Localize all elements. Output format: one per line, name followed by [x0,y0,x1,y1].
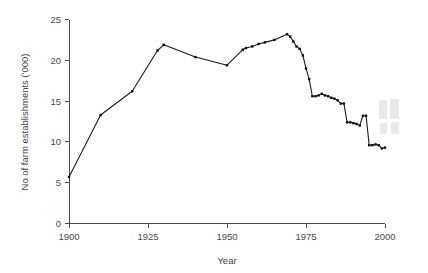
data-point [330,97,332,99]
data-point [321,93,323,95]
data-point [156,49,158,51]
data-point [226,64,228,66]
data-point [131,90,133,92]
data-point [359,124,361,126]
x-tick-label: 1925 [137,231,158,242]
data-point [257,43,259,45]
data-point [336,99,338,101]
data-point [245,47,247,49]
y-tick-label: 25 [50,14,61,25]
farm-establishments-line-chart: 0510152025 19001925195019752000 Year No … [0,0,428,273]
data-point [292,40,294,42]
data-point [194,56,196,58]
y-tick-label: 15 [50,96,61,107]
data-point [371,144,373,146]
data-point [352,122,354,124]
data-point [340,102,342,104]
data-point [384,146,386,148]
data-point [242,48,244,50]
data-point [368,144,370,146]
data-point [327,95,329,97]
data-point [317,94,319,96]
y-axis-title: No of farm establishments ('000) [19,54,30,191]
data-point [264,41,266,43]
data-point [377,144,379,146]
data-point [333,97,335,99]
data-point [251,45,253,47]
data-point [349,121,351,123]
data-point [273,39,275,41]
data-point [314,95,316,97]
data-point [298,48,300,50]
data-point [346,121,348,123]
data-point [68,176,70,178]
data-point [362,115,364,117]
chart-container: 0510152025 19001925195019752000 Year No … [0,0,428,273]
y-tick-label: 0 [56,218,61,229]
data-point [289,35,291,37]
y-tick-label: 5 [56,177,61,188]
data-point [163,44,165,46]
x-axis-title: Year [217,255,236,266]
y-tick-label: 10 [50,136,61,147]
y-tick-label: 20 [50,55,61,66]
data-point [311,95,313,97]
data-point [295,45,297,47]
data-point [302,54,304,56]
data-point [381,147,383,149]
data-point [374,143,376,145]
data-point [99,114,101,116]
data-point [286,33,288,35]
data-point [308,78,310,80]
data-point [305,67,307,69]
data-point [343,102,345,104]
data-point [324,94,326,96]
data-point [355,123,357,125]
x-tick-label: 1950 [216,231,237,242]
data-point [365,115,367,117]
x-tick-label: 2000 [374,231,395,242]
x-tick-label: 1900 [58,231,79,242]
x-tick-label: 1975 [295,231,316,242]
